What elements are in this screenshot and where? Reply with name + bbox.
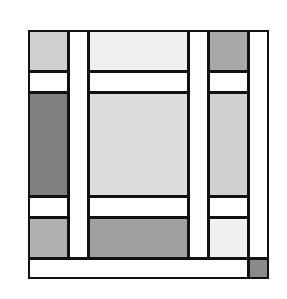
strip-h1-right	[208, 71, 249, 93]
strip-v-right	[248, 30, 269, 259]
strip-h1-left	[28, 71, 69, 93]
cell-top-center	[88, 30, 189, 72]
cell-top-left	[28, 30, 69, 72]
grid-diagram	[0, 0, 287, 299]
cell-bottom-left	[28, 217, 69, 259]
strip-h2-right	[208, 196, 249, 218]
strip-v2	[188, 30, 209, 259]
cell-corner-square	[248, 258, 269, 279]
strip-h2-left	[28, 196, 69, 218]
cell-middle-right	[208, 92, 249, 197]
cell-bottom-right	[208, 217, 249, 259]
cell-bottom-center	[88, 217, 189, 259]
cell-top-right	[208, 30, 249, 72]
strip-bottom	[28, 258, 249, 279]
strip-v1	[68, 30, 89, 259]
cell-middle-left	[28, 92, 69, 197]
strip-h2-center	[88, 196, 189, 218]
strip-h1-center	[88, 71, 189, 93]
cell-middle-center	[88, 92, 189, 197]
